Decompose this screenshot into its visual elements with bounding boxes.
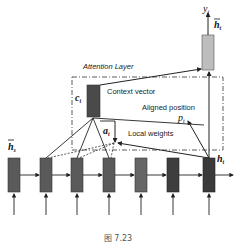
context-vector-box [87,85,100,117]
target-to-weights-arrow [118,143,209,158]
attention-layer-title: Attention Layer [82,62,134,71]
source-hidden-label: hs [8,141,17,153]
aligned-position-label: Aligned position [142,103,195,112]
context-source-lines [46,118,204,158]
attentional-hidden-label: ht [214,19,222,31]
figure-caption: 图 7.23 [104,234,132,243]
context-symbol-label: ct [75,92,81,104]
local-weights-label: Local weights [128,129,174,138]
context-vector-label: Context vector [107,87,156,96]
attention-diagram: yt ht Attention Layer ct Context vector … [0,0,236,245]
aligned-position-symbol: pt [177,112,185,124]
target-hidden-label: ht [217,153,225,165]
input-arrows [14,194,209,215]
attentional-hidden-box [202,35,214,70]
target-to-position-arrow [188,121,209,158]
output-label: yt [202,3,209,15]
weights-symbol-label: at [103,125,110,137]
